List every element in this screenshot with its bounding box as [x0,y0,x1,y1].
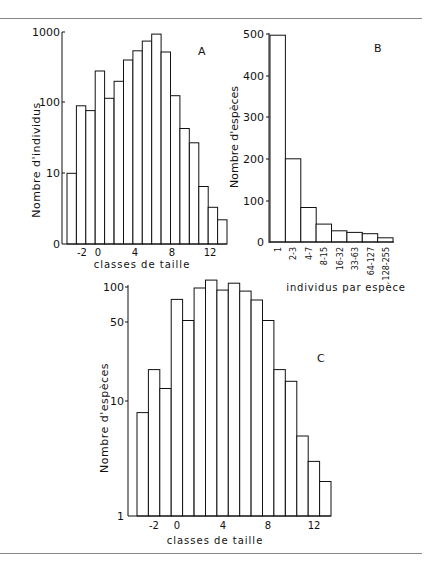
chart-b: 500 400 300 200 100 0 1 2-3 4-7 8-15 16-… [228,28,406,293]
chart-a-ytick: 10 [46,167,60,180]
bar [67,173,76,244]
bar [189,143,198,244]
bar [86,111,95,244]
chart-c-ytick: 100 [103,281,124,294]
chart-c-xtick: 8 [265,520,271,531]
bar [316,224,331,242]
bar [362,234,377,242]
chart-a-xtick: 0 [95,247,101,258]
chart-a-xlabel: classes de taille [94,259,191,270]
chart-a: 1000 100 10 0 -2 0 4 8 12 classes de tai… [30,26,227,270]
bar [228,283,239,516]
chart-c-ytick: 1 [117,510,124,523]
chart-c-xlabel: classes de taille [167,535,264,546]
chart-a-ylabel: Nombre d'individus [30,102,43,218]
chart-b-xtick: 4-7 [305,247,314,260]
bar [285,159,300,242]
chart-a-ytick: 0 [53,238,60,251]
chart-b-ytick: 500 [243,28,264,41]
bar [95,71,104,244]
bar [263,321,274,517]
bar [285,381,296,516]
chart-c: 100 50 10 1 -2 0 4 8 12 classes de taill… [98,280,331,546]
bar [217,290,228,516]
chart-c-ytick: 10 [110,395,124,408]
bar [378,238,393,242]
bar [206,280,217,516]
chart-b-panel-label: B [374,42,382,55]
bar [142,41,151,244]
chart-b-ytick: 200 [243,153,264,166]
chart-b-xtick: 8-15 [320,247,329,265]
bar [137,413,148,516]
bar [133,51,142,244]
chart-b-xtick: 64-127 [367,247,376,275]
bar [297,436,308,516]
bar [183,321,194,517]
bar [171,96,180,244]
chart-b-ytick: 0 [257,236,264,249]
chart-a-xtick: 4 [132,247,138,258]
chart-a-xtick: 8 [169,247,175,258]
bar [308,461,319,516]
chart-c-panel-label: C [317,352,325,365]
chart-c-xtick: -2 [149,520,159,531]
bar [76,106,85,244]
bar [270,35,285,242]
chart-b-xtick: 16-32 [336,247,345,270]
bar [105,98,114,244]
chart-c-ytick: 50 [110,316,124,329]
chart-b-ytick: 100 [243,195,264,208]
chart-c-ylabel: Nombre d'espèces [98,363,111,473]
chart-b-xlabel: individus par espèce [286,282,405,293]
chart-b-xtick: 128-255 [382,247,391,280]
chart-a-xtick: 12 [204,247,217,258]
bar [320,482,331,517]
bar [274,370,285,516]
bar [114,81,123,244]
bar [218,220,227,244]
bar [347,232,362,242]
chart-b-ytick: 400 [243,70,264,83]
bar [199,187,208,245]
bar [301,208,316,243]
bar [251,300,262,516]
bar [161,52,170,244]
bar [171,299,182,516]
chart-b-bars [270,35,393,242]
chart-a-panel-label: A [198,45,206,58]
bar [240,291,251,516]
bar [194,288,205,516]
bar [124,60,133,244]
bar [332,231,347,242]
bar [208,207,217,244]
chart-a-bars [67,34,227,244]
chart-c-xtick: 0 [174,520,180,531]
bar [160,389,171,517]
bar [148,370,159,516]
chart-b-ytick: 300 [243,111,264,124]
chart-c-xtick: 12 [308,520,321,531]
chart-a-ytick: 1000 [32,26,60,39]
chart-c-bars [137,280,331,516]
bar [152,34,161,244]
chart-b-xtick: 1 [274,247,283,252]
figure: 1000 100 10 0 -2 0 4 8 12 classes de tai… [0,0,428,573]
chart-a-xtick: -2 [77,247,87,258]
bar [180,129,189,245]
chart-b-xtick: 33-63 [351,247,360,270]
chart-c-xtick: 4 [220,520,226,531]
chart-b-xtick: 2-3 [289,247,298,260]
chart-b-ylabel: Nombre d'espèces [228,86,241,188]
